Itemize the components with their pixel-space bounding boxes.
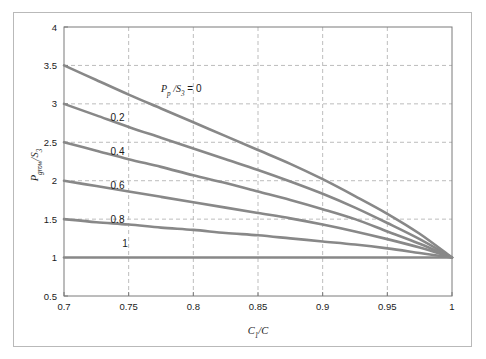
- x-tick-label: 0.8: [187, 301, 200, 312]
- x-tick-label: 0.75: [119, 301, 138, 312]
- y-tick-label: 3.5: [44, 60, 57, 71]
- chart-canvas: 0.70.750.80.850.90.9510.511.522.533.54 P…: [0, 0, 486, 359]
- y-tick-label: 2: [52, 175, 57, 186]
- x-tick-label: 0.85: [249, 301, 268, 312]
- y-tick-label: 3: [52, 98, 57, 109]
- curve-label: 0.8: [111, 214, 125, 225]
- curve-label: 0.4: [111, 146, 125, 157]
- y-tick-label: 2.5: [44, 137, 57, 148]
- x-tick-label: 1: [449, 301, 454, 312]
- x-tick-label: 0.95: [378, 301, 397, 312]
- curve-label: 1: [122, 238, 128, 249]
- x-tick-label: 0.9: [316, 301, 329, 312]
- curve-label: 0.2: [111, 112, 125, 123]
- curve-label: 0.6: [111, 180, 125, 191]
- figure-root: 0.70.750.80.850.90.9510.511.522.533.54 P…: [0, 0, 486, 359]
- gridlines: [64, 27, 452, 296]
- x-tick-label: 0.7: [57, 301, 70, 312]
- y-tick-label: 4: [52, 22, 57, 33]
- y-axis-title: Pgrow/S3: [29, 148, 44, 182]
- y-tick-label: 0.5: [44, 291, 57, 302]
- x-axis-title: C1/C: [248, 325, 270, 340]
- curve-label: Pp /S3 = 0: [160, 83, 202, 98]
- y-tick-label: 1: [52, 252, 57, 263]
- y-tick-label: 1.5: [44, 214, 57, 225]
